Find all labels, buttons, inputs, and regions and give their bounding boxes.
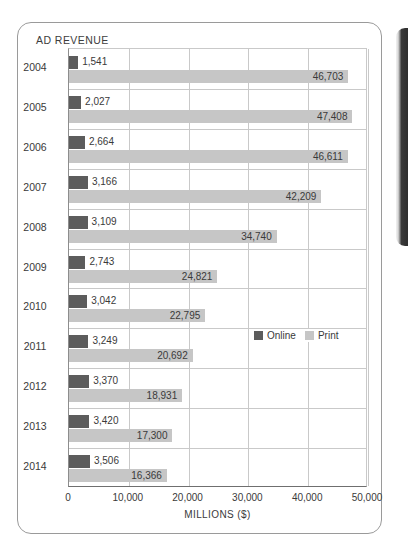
chart-plot-area: 1,54146,7032,02747,4082,66446,6113,16642… [68,48,367,487]
bar-value-label-print: 18,931 [69,389,177,402]
bar-group: 1,54146,703 [69,49,366,89]
bar-value-label-online: 2,027 [85,95,110,108]
legend-label: Online [267,330,296,341]
bar-value-label-online: 2,743 [89,255,114,268]
legend-label: Print [318,330,339,341]
bar-group: 3,37018,931 [69,368,366,408]
y-axis-label-2008: 2008 [6,221,64,233]
bar-value-label-print: 42,209 [69,190,316,203]
y-axis-label-2006: 2006 [6,141,64,153]
bar-value-label-print: 34,740 [69,230,272,243]
y-axis-label-2004: 2004 [6,61,64,73]
page-edge-artifact [396,28,408,246]
bar-online [69,455,90,468]
bar-value-label-print: 22,795 [69,309,200,322]
bar-value-label-print: 20,692 [69,349,188,362]
bar-online [69,216,88,229]
y-axis-label-2012: 2012 [6,380,64,392]
bar-value-label-online: 3,109 [92,215,117,228]
x-axis-title: MILLIONS ($) [68,509,367,520]
x-axis-tick-20000: 20,000 [172,492,203,503]
bar-value-label-online: 1,541 [82,55,107,68]
x-axis-tick-40000: 40,000 [292,492,323,503]
y-axis-label-2011: 2011 [6,340,64,352]
bar-value-label-print: 46,703 [69,70,343,83]
chart-legend: OnlinePrint [252,329,340,342]
y-axis-label-2010: 2010 [6,300,64,312]
bar-value-label-online: 3,370 [93,374,118,387]
bar-online [69,56,78,69]
x-axis-tick-0: 0 [65,492,71,503]
y-axis-label-2013: 2013 [6,420,64,432]
bar-value-label-online: 3,506 [94,454,119,467]
x-axis-tick-10000: 10,000 [113,492,144,503]
bar-online [69,256,85,269]
bar-group: 3,04222,795 [69,288,366,328]
bar-group: 3,10934,740 [69,209,366,249]
bar-online [69,295,87,308]
bar-value-label-print: 47,408 [69,110,347,123]
bar-online [69,176,88,189]
bar-group: 2,66446,611 [69,129,366,169]
bar-value-label-online: 3,166 [92,175,117,188]
legend-item-print: Print [305,330,339,341]
bar-value-label-print: 17,300 [69,429,167,442]
bar-value-label-print: 46,611 [69,150,343,163]
y-axis-label-2007: 2007 [6,181,64,193]
bar-online [69,335,88,348]
legend-item-online: Online [254,330,296,341]
bar-group: 3,50616,366 [69,448,366,488]
bar-group: 2,74324,821 [69,249,366,289]
bar-value-label-online: 2,664 [89,135,114,148]
y-axis-label-2014: 2014 [6,460,64,472]
x-axis-tick-50000: 50,000 [352,492,383,503]
bar-value-label-online: 3,420 [93,414,118,427]
bar-online [69,96,81,109]
bar-value-label-print: 24,821 [69,270,212,283]
bar-online [69,136,85,149]
bar-value-label-online: 3,042 [91,294,116,307]
bar-online [69,415,89,428]
y-axis-label-2009: 2009 [6,261,64,273]
legend-swatch-online-icon [254,331,263,340]
legend-swatch-print-icon [305,331,314,340]
bar-group: 3,16642,209 [69,169,366,209]
bar-group: 3,42017,300 [69,408,366,448]
bar-group: 2,02747,408 [69,89,366,129]
bar-value-label-online: 3,249 [92,334,117,347]
y-axis-label-2005: 2005 [6,101,64,113]
bar-online [69,375,89,388]
x-axis-tick-30000: 30,000 [232,492,263,503]
gridline-vertical [368,49,369,486]
chart-title: AD REVENUE [36,34,109,46]
bar-value-label-print: 16,366 [69,469,162,482]
